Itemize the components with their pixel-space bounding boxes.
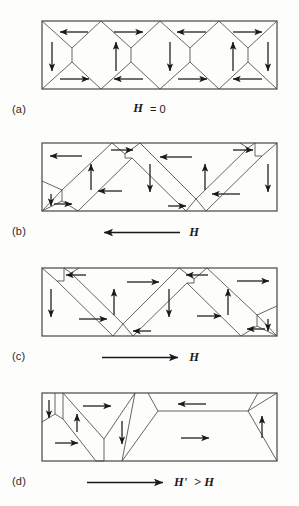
panel-b-field-symbol: H [189, 225, 199, 240]
panel-c-caption: H [0, 350, 299, 365]
panel-a: (a) H = 0 [0, 14, 299, 124]
panel-d-field-relation: > H [194, 475, 214, 490]
panel-d-diagram [0, 386, 299, 471]
figure-container: (a) H = 0 [0, 0, 299, 506]
field-direction-arrow-right [85, 477, 167, 488]
panel-d: (d) H' > H [0, 386, 299, 498]
panel-a-diagram [0, 14, 299, 99]
panel-c-field-symbol: H [189, 350, 199, 365]
field-direction-arrow-right [100, 352, 182, 363]
panel-b-caption: H [0, 225, 299, 240]
field-direction-arrow-left [100, 227, 182, 238]
panel-c: (c) H [0, 261, 299, 371]
panel-a-field-symbol: H [133, 101, 143, 116]
panel-c-diagram [0, 261, 299, 346]
specimen-outline [42, 268, 277, 336]
specimen-outline [42, 143, 277, 211]
panel-a-field-relation: = 0 [150, 103, 166, 115]
panel-d-caption: H' > H [0, 475, 299, 490]
panel-b-diagram [0, 136, 299, 221]
panel-a-caption: H = 0 [0, 101, 299, 116]
panel-b: (b) H [0, 136, 299, 246]
panel-d-field-symbol: H' [174, 475, 187, 490]
